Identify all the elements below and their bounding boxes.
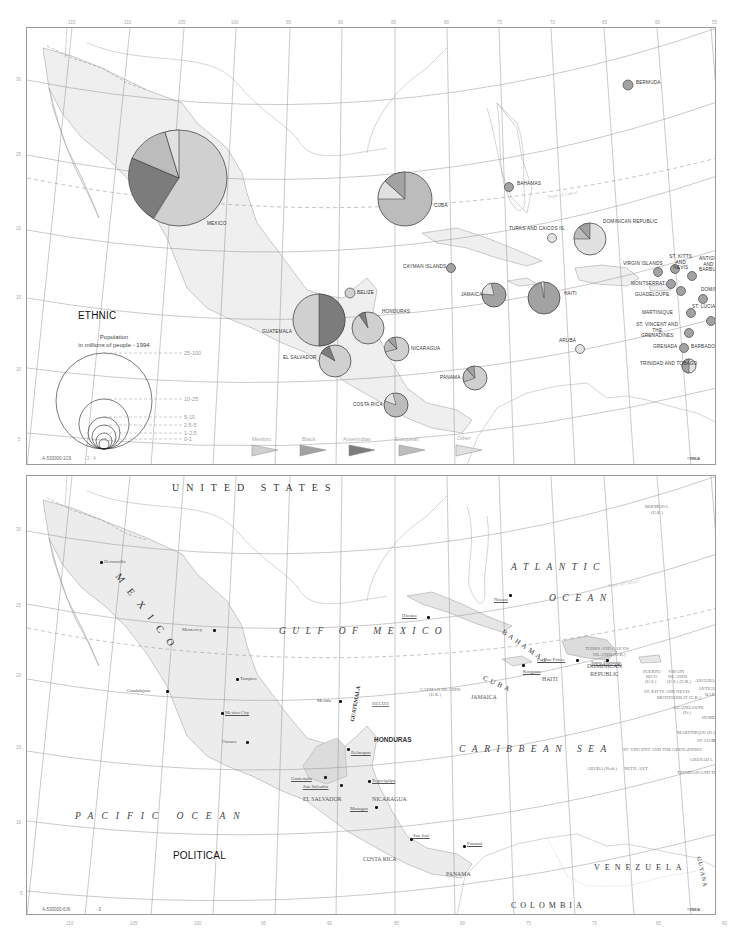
label-cuba: CUBA <box>434 203 448 209</box>
label-anguilla: ANGUILLA (U.K.) <box>695 678 716 683</box>
city-dot <box>324 776 327 779</box>
label-dominica: DOMINICA <box>701 287 716 293</box>
map-code-suffix-political: -3 <box>97 907 101 912</box>
copyright-political: ©RM/A <box>687 907 700 912</box>
lon-tick: 70 <box>550 20 555 25</box>
label-united-states: UNITED STATES <box>172 482 337 493</box>
pie-guatemala <box>293 294 345 346</box>
city-dot <box>246 741 249 744</box>
map-code: A-530000-1C6 <box>42 456 71 461</box>
city-dot <box>427 616 430 619</box>
scale-leader-lines <box>104 353 182 439</box>
label-aruba-political: ARUBA (Neth.) <box>587 766 617 771</box>
label-costa-rica-political: COSTA RICA <box>363 856 397 862</box>
population-scale-legend <box>56 353 152 449</box>
city-dot <box>236 678 239 681</box>
label-neth-ant: NETH. ANT. <box>624 766 649 771</box>
label-bahamas: BAHAMAS <box>517 181 541 187</box>
city-san-salvador: San Salvador <box>303 784 328 789</box>
label-aruba: ARUBA <box>559 338 576 344</box>
pie-aruba <box>576 345 585 354</box>
label-haiti: HAITI <box>564 291 577 297</box>
label-caribbean-sea: CARIBBEAN SEA <box>459 744 613 754</box>
ethnic-map-graphic <box>27 28 716 465</box>
label-martinique-political: MARTINIQUE (Fr.) <box>677 730 715 735</box>
label-antigua-barbuda: ANTIGUA AND BARBUDA <box>699 256 716 273</box>
label-st-vincent-political: ST. VINCENT AND THE GRENADINES <box>623 747 702 752</box>
lon-tick: 95 <box>286 20 291 25</box>
political-map-panel: UNITED STATES MEXICO GULF OF MEXICO ATLA… <box>26 475 716 915</box>
label-barbados: BARBADOS <box>691 344 716 350</box>
label-pacific-ocean: PACIFIC OCEAN <box>75 811 248 821</box>
lon-tick: 65 <box>602 20 607 25</box>
label-montserrat: MONTSERRAT <box>631 281 665 287</box>
label-nicaragua: NICARAGUA <box>411 346 440 352</box>
pie-dominican-republic <box>574 223 606 255</box>
label-st-kitts-nevis: ST. KITTS AND NEVIS <box>668 254 694 271</box>
city-santo-domingo: Santo Domingo <box>591 660 621 665</box>
city-dot <box>522 664 525 667</box>
pie-panama <box>463 366 487 390</box>
pie-nicaragua <box>384 337 409 361</box>
city-dot <box>339 700 342 703</box>
copyright: ©RM/A <box>687 456 700 461</box>
ethnic-map-title: ETHNIC <box>78 310 116 321</box>
lon-tick: 90 <box>338 20 343 25</box>
lon-tick: 105 <box>130 921 138 926</box>
label-panama-political: PANAMA <box>446 871 471 877</box>
lat-tick: 20 <box>16 226 21 231</box>
label-puerto-rico-3: (U.S.) <box>645 679 656 684</box>
legend-title-line1: Population <box>49 333 179 341</box>
label-bermuda-sub: (U.K.) <box>651 510 663 515</box>
label-colombia: COLOMBIA <box>511 901 586 910</box>
city-dot <box>340 784 343 787</box>
lon-tick: 95 <box>261 921 266 926</box>
city-dot <box>100 561 103 564</box>
scale-label-2.5-5: 2.5-5 <box>184 422 197 428</box>
label-guatemala: GUATEMALA <box>262 329 292 335</box>
label-antigua-1: ANTIGUA AND <box>698 686 716 691</box>
label-dominican-2: REPUBLIC <box>590 671 619 677</box>
label-st-kitts-political: ST. KITTS AND NEVIS <box>644 689 690 694</box>
lon-tick: 85 <box>394 921 399 926</box>
scale-label-25-100: 25-100 <box>184 350 201 356</box>
scale-label-5-10: 5-10 <box>184 414 195 420</box>
lat-tick: 5 <box>18 437 21 442</box>
lon-tick: 60 <box>722 921 727 926</box>
legend-title-line2: in millions of people - 1994 <box>49 341 179 349</box>
label-haiti-political: HAITI <box>542 676 558 682</box>
political-map-graphic <box>27 476 716 915</box>
label-panama: PANAMA <box>440 375 460 381</box>
label-belize-political: BELIZE <box>372 701 389 706</box>
legend-label-mestizo: Mestizo <box>252 436 271 442</box>
label-gulf-of-mexico: GULF OF MEXICO <box>279 626 448 636</box>
city-dot <box>576 659 579 662</box>
pie-turks-caicos <box>548 234 557 243</box>
label-trinidad-tobago: TRINIDAD AND TOBAGO <box>640 361 697 367</box>
label-el-salvador: EL SALVADOR <box>283 355 316 361</box>
legend-label-amerindian: Amerindian <box>343 436 371 442</box>
lon-tick: 75 <box>497 20 502 25</box>
political-map-title: POLITICAL <box>173 850 226 861</box>
label-bermuda-political: BERMUDA <box>645 504 668 509</box>
lon-tick: 115 <box>68 20 75 25</box>
city-guadalajara: Guadalajara <box>127 688 150 693</box>
legend-title: Population in millions of people - 1994 <box>49 333 179 349</box>
legend-label-black: Black <box>302 436 315 442</box>
pie-jamaica <box>482 283 506 307</box>
label-grenada-political: GRENADA <box>690 757 712 762</box>
label-montserrat-political: MONTSERRAT (U.K.) <box>657 695 701 700</box>
city-monterrey: Monterrey <box>182 627 202 632</box>
city-san-jose: San José <box>413 833 430 838</box>
city-hermosillo: Hermosillo <box>104 559 126 564</box>
label-st-vincent: ST. VINCENT AND THE GRENADINES <box>636 322 679 339</box>
city-merida: Merida <box>317 698 331 703</box>
label-cayman-2: (U.K.) <box>429 692 441 697</box>
city-panama: Panamá <box>467 841 482 846</box>
pie-belize <box>345 288 355 298</box>
city-port-au-prince: Port-au-Prince <box>537 657 565 662</box>
label-turks-caicos: TURKS AND CAICOS IS. <box>509 226 565 232</box>
legend-label-other: Other <box>457 435 471 441</box>
lon-tick: 85 <box>391 20 396 25</box>
label-turks-2: ISLANDS (U.K.) <box>593 652 626 657</box>
